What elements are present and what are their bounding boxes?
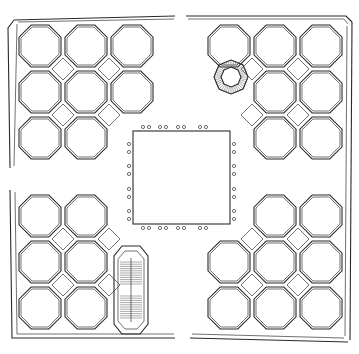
oval-double-stair — [114, 246, 148, 334]
floor-plan — [0, 0, 359, 354]
outer-walls — [8, 16, 352, 342]
octagonal-rooms — [19, 25, 342, 329]
spiral-stair — [214, 60, 248, 94]
floor-plan-drawing — [0, 0, 359, 354]
central-courtyard — [127, 125, 235, 229]
diamond-rooms — [52, 58, 309, 296]
